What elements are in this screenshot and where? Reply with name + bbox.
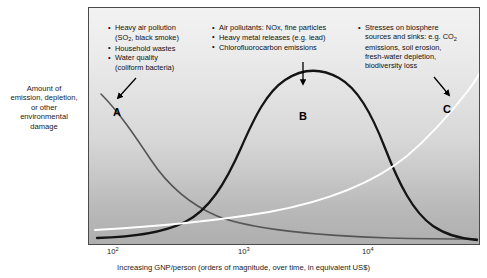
y-axis-label-line-3: or other [2,103,86,112]
y-axis-label-line-1: Amount of [2,84,86,93]
y-axis-label-line-5: damage [2,122,86,131]
curve-marker-a: A [113,106,121,118]
curve-a-path [101,94,477,239]
x-axis-caption: Increasing GNP/person (orders of magnitu… [0,263,487,272]
note-a-item-5: (coliform bacteria) [108,63,179,72]
annotation-block-b: Air pollutants: NOx, fine particles Heav… [212,23,326,52]
y-axis-label: Amount of emission, depletion, or other … [2,84,86,131]
y-axis-label-line-4: environmental [2,112,86,121]
note-a-item-1: Heavy air pollution [108,23,179,32]
curve-b-path [97,71,477,240]
note-a-item-4: Water quality [108,53,179,62]
x-tick-label-1: 103 [238,247,250,256]
note-b-item-2: Heavy metal releases (e.g. lead) [212,33,326,42]
note-a-item-3: Household wastes [108,44,179,53]
x-tick-label-2: 104 [362,247,374,256]
curve-marker-b: B [299,110,307,122]
environmental-kuznets-curve-figure: Amount of emission, depletion, or other … [0,0,487,278]
note-c-item-1: Stresses on biosphere sources and sinks:… [358,23,487,70]
annotation-block-a: Heavy air pollution (SO2, black smoke) H… [108,23,179,73]
curve-c-path [95,74,479,230]
note-b-item-3: Chlorofluorocarbon emissions [212,43,326,52]
curve-marker-c: C [443,103,451,115]
note-a-item-2: (SO2, black smoke) [108,33,179,43]
note-b-item-1: Air pollutants: NOx, fine particles [212,23,326,32]
annotation-block-c: Stresses on biosphere sources and sinks:… [358,23,487,71]
y-axis-label-line-2: emission, depletion, [2,93,86,102]
x-tick-label-0: 102 [107,247,119,256]
